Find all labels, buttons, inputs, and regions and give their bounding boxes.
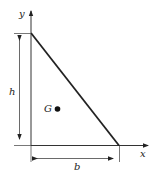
centroid-label: G (44, 103, 52, 114)
triangle-hypotenuse (31, 33, 119, 146)
height-label: h (9, 86, 15, 97)
y-axis-label: y (18, 8, 25, 19)
base-label: b (74, 161, 80, 172)
triangle-diagram: y x h b G (0, 0, 161, 184)
x-axis-label: x (140, 148, 146, 159)
centroid-dot (55, 106, 61, 112)
